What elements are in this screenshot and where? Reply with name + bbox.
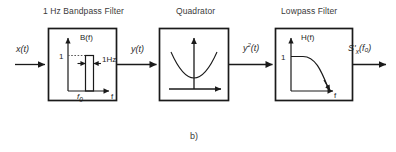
figure-block-diagram: 1 Hz Bandpass Filter Quadrator Lowpass F… — [0, 0, 396, 152]
block-outline-lowpass — [276, 29, 353, 101]
plot-quadrator-parabola — [169, 38, 221, 89]
plot-lowpass-rolloff-curve — [291, 57, 328, 88]
diagram-vector-layer — [0, 0, 396, 152]
plot-lowpass-curve-arrowhead — [324, 80, 330, 91]
plot-bandpass-response — [68, 38, 109, 91]
plot-lowpass-response — [291, 38, 333, 91]
plot-bandpass-passband-rect — [86, 56, 94, 92]
block-outline-bandpass — [49, 29, 117, 101]
